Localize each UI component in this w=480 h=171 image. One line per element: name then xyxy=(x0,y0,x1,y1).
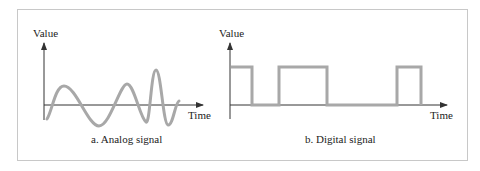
digital-y-label: Value xyxy=(219,27,244,39)
signal-diagram: Value Time a. Analog signal Value Time b… xyxy=(0,0,480,171)
analog-x-label: Time xyxy=(188,109,211,121)
analog-y-label: Value xyxy=(33,27,58,39)
digital-x-label: Time xyxy=(430,109,453,121)
digital-caption: b. Digital signal xyxy=(305,133,376,145)
analog-caption: a. Analog signal xyxy=(91,133,162,145)
